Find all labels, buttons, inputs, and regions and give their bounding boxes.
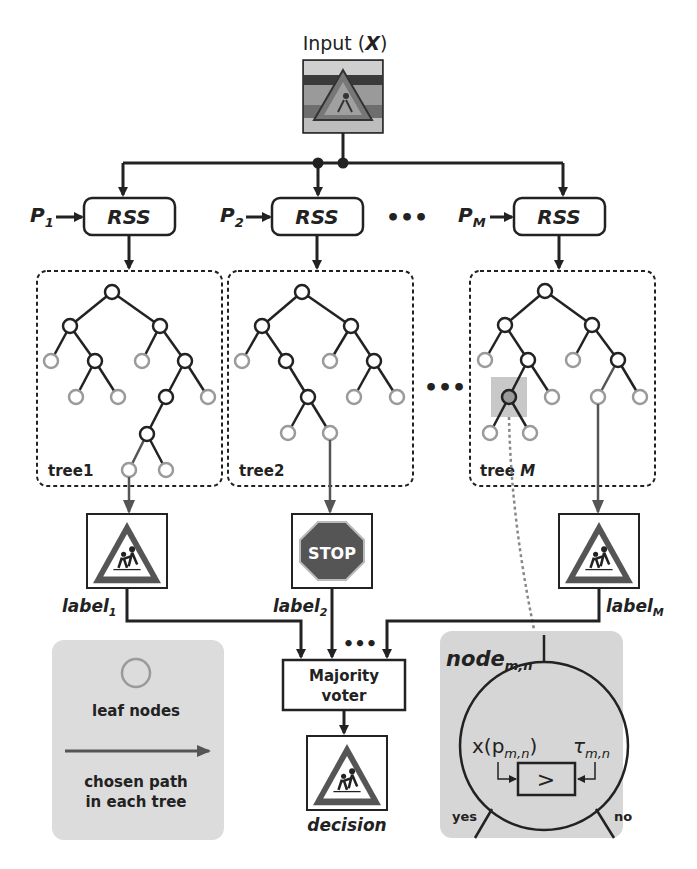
svg-text:voter: voter — [322, 687, 367, 705]
input-block: Input (X) — [303, 32, 388, 133]
voter-ellipsis: ••• — [343, 633, 378, 654]
rss-block-m: PM RSS — [458, 198, 605, 268]
rss-block-1: P1 RSS — [30, 198, 175, 268]
svg-text:chosen path: chosen path — [84, 773, 188, 791]
no-branch-label: no — [614, 809, 632, 824]
decision: decision — [307, 736, 387, 835]
rss-ellipsis: ••• — [386, 205, 428, 230]
label-2-text: label2 — [273, 596, 328, 619]
input-image — [303, 60, 383, 133]
chosen-paths — [129, 404, 598, 512]
tree-m: tree M — [470, 271, 655, 486]
label-2: STOP label2 — [273, 514, 372, 619]
tree-1: tree1 — [37, 271, 222, 486]
param-pm: PM — [458, 203, 486, 230]
label-1: label1 — [62, 514, 167, 619]
yes-branch-label: yes — [452, 809, 477, 824]
tree-label: tree M — [480, 462, 535, 480]
tree-2: tree2 — [228, 271, 413, 486]
rss-block-2: P2 RSS — [220, 198, 363, 268]
input-bus — [123, 133, 563, 195]
label-m: labelM — [559, 514, 664, 619]
node-detail: nodem,n x(pm,n) τm,n > yes no — [440, 631, 632, 838]
label-m-text: labelM — [606, 596, 664, 619]
leaf-node — [44, 354, 215, 477]
majority-voter: Majority voter — [283, 660, 405, 710]
decision-label: decision — [307, 815, 386, 835]
input-label: Input (X) — [303, 32, 388, 54]
svg-text:Majority: Majority — [309, 667, 379, 685]
legend: leaf nodes chosen path in each tree — [52, 640, 224, 840]
rss-label: RSS — [295, 205, 339, 229]
svg-text:leaf nodes: leaf nodes — [92, 702, 180, 720]
svg-text:>: > — [537, 767, 555, 792]
param-p1: P1 — [30, 203, 54, 230]
rss-label: RSS — [107, 205, 151, 229]
tree-ellipsis: ••• — [424, 375, 466, 400]
node-detail-link — [509, 417, 535, 634]
svg-text:in each tree: in each tree — [85, 793, 186, 811]
tree-label: tree2 — [239, 462, 284, 480]
stop-text: STOP — [308, 544, 356, 563]
rss-label: RSS — [537, 205, 581, 229]
label-1-text: label1 — [62, 596, 116, 619]
param-p2: P2 — [220, 203, 244, 230]
tree-label: tree1 — [48, 462, 93, 480]
